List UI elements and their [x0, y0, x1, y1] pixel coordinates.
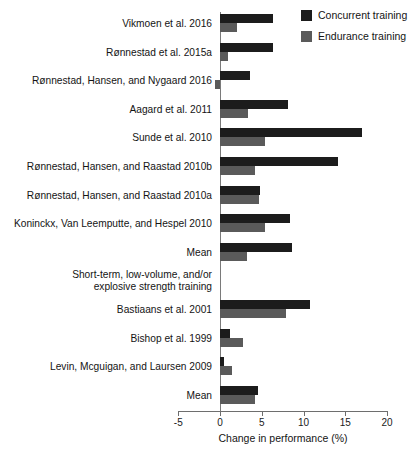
- bar-endurance: [220, 52, 228, 61]
- chart-container: -505101520 Change in performance (%) Vik…: [0, 0, 415, 453]
- bar-row: Aagard et al. 2011: [0, 100, 415, 118]
- section-header-label: Short-term, low-volume, and/or explosive…: [72, 269, 212, 293]
- section-header-row: Short-term, low-volume, and/or explosive…: [0, 271, 415, 289]
- x-axis-tick: [387, 411, 388, 416]
- bar-endurance: [220, 23, 237, 32]
- legend-swatch-icon-concurrent: [301, 10, 312, 21]
- bar-concurrent: [220, 357, 224, 366]
- row-label: Koninckx, Van Leemputte, and Hespel 2010: [14, 218, 212, 230]
- bar-endurance: [220, 137, 265, 146]
- bar-row: Koninckx, Van Leemputte, and Hespel 2010: [0, 214, 415, 232]
- x-axis-line: [178, 411, 388, 412]
- x-axis-title: Change in performance (%): [219, 432, 348, 444]
- row-label: Sunde et al. 2010: [132, 132, 212, 144]
- x-axis-tick-label: 15: [340, 417, 351, 428]
- bar-row: Bastiaans et al. 2001: [0, 300, 415, 318]
- bar-concurrent: [220, 386, 258, 395]
- legend-item-concurrent: Concurrent training: [301, 9, 407, 22]
- row-label: Vikmoen et al. 2016: [122, 18, 212, 30]
- bar-concurrent: [220, 329, 230, 338]
- row-label: Bastiaans et al. 2001: [117, 304, 212, 316]
- bar-endurance: [220, 338, 243, 347]
- row-label: Bishop et al. 1999: [130, 333, 212, 345]
- bar-concurrent: [220, 214, 290, 223]
- bar-endurance: [220, 395, 255, 404]
- bar-endurance: [220, 109, 248, 118]
- row-label: Mean: [187, 390, 212, 402]
- bar-concurrent: [220, 243, 292, 252]
- legend-item-endurance: Endurance training: [301, 30, 407, 43]
- bar-row: Rønnestad, Hansen, and Raastad 2010b: [0, 157, 415, 175]
- bar-concurrent: [220, 100, 288, 109]
- row-label: Rønnestad, Hansen, and Nygaard 2016: [32, 75, 212, 87]
- bar-concurrent: [220, 128, 362, 137]
- bar-concurrent: [220, 157, 338, 166]
- bar-row: Sunde et al. 2010: [0, 128, 415, 146]
- x-axis-tick-label: 0: [217, 417, 223, 428]
- x-axis-tick: [304, 411, 305, 416]
- row-label: Rønnestad, Hansen, and Raastad 2010a: [27, 190, 212, 202]
- x-axis-tick-label: 5: [259, 417, 265, 428]
- bar-endurance: [220, 309, 286, 318]
- row-label: Mean: [187, 247, 212, 259]
- bar-row: Rønnestad, Hansen, and Raastad 2010a: [0, 186, 415, 204]
- bar-concurrent: [220, 71, 250, 80]
- x-axis-tick: [178, 411, 179, 416]
- row-label: Levin, Mcguigan, and Laursen 2009: [50, 361, 212, 373]
- bar-endurance: [220, 195, 259, 204]
- bar-endurance: [215, 80, 220, 89]
- plot-area: -505101520 Change in performance (%) Vik…: [0, 0, 415, 453]
- bar-concurrent: [220, 43, 273, 52]
- legend-label-endurance: Endurance training: [318, 31, 406, 42]
- bar-row: Mean: [0, 386, 415, 404]
- chart-legend: Concurrent training Endurance training: [301, 9, 407, 51]
- row-label: Aagard et al. 2011: [129, 104, 212, 116]
- bar-row: Bishop et al. 1999: [0, 329, 415, 347]
- legend-label-concurrent: Concurrent training: [318, 10, 407, 21]
- x-axis-tick: [345, 411, 346, 416]
- bar-endurance: [220, 223, 265, 232]
- bar-endurance: [220, 252, 247, 261]
- bar-concurrent: [220, 14, 273, 23]
- row-label: Rønnestad, Hansen, and Raastad 2010b: [27, 161, 212, 173]
- x-axis-tick-label: 20: [381, 417, 392, 428]
- bar-endurance: [220, 366, 232, 375]
- bar-concurrent: [220, 300, 310, 309]
- bar-row: Rønnestad, Hansen, and Nygaard 2016: [0, 71, 415, 89]
- row-label: Rønnestad et al. 2015a: [106, 47, 212, 59]
- x-axis-tick-label: -5: [174, 417, 183, 428]
- x-axis-tick: [220, 411, 221, 416]
- bar-row: Mean: [0, 243, 415, 261]
- bar-row: Levin, Mcguigan, and Laursen 2009: [0, 357, 415, 375]
- x-axis-tick-label: 10: [298, 417, 309, 428]
- bar-concurrent: [220, 186, 260, 195]
- bar-endurance: [220, 166, 255, 175]
- x-axis-tick: [262, 411, 263, 416]
- legend-swatch-icon-endurance: [301, 31, 312, 42]
